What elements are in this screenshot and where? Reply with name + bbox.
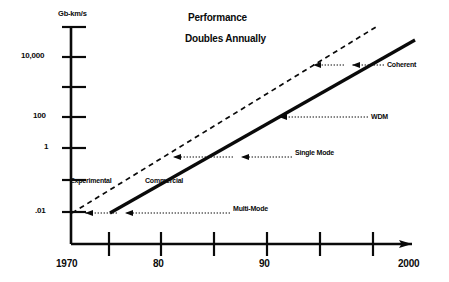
x-tick-label-90: 90 [259,259,270,269]
y-tick-label-1: 1 [44,143,48,151]
y-tick-label-point01: .01 [35,207,46,215]
chart-title-line-2: Doubles Annually [185,34,266,44]
x-tick-label-1970: 1970 [56,259,77,269]
callout-label-wdm: WDM [371,113,388,120]
y-axis-unit-label: Gb-km/s [58,10,87,18]
series-label-commercial: Commercial [145,177,183,184]
series-experimental [72,27,376,213]
x-tick-label-2000: 2000 [398,259,419,269]
x-tick-label-80: 80 [153,259,164,269]
chart-title-line-1: Performance [188,13,247,23]
callout-leaders [85,65,384,213]
callout-label-multi-mode: Multi-Mode [233,205,268,212]
series-label-experimental: Experimental [70,177,112,184]
series-commercial [110,40,415,213]
callout-label-coherent: Coherent [387,61,416,68]
y-tick-label-10000: 10,000 [21,52,44,60]
performance-chart: Performance Doubles Annually Gb-km/s 10,… [0,0,449,282]
x-axis [71,232,412,256]
y-tick-label-100: 100 [33,112,46,120]
callout-label-single-mode: Single Mode [295,149,334,156]
